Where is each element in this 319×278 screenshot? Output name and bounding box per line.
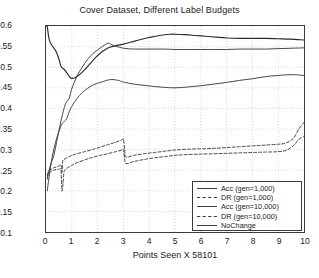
y-tick-label: 0.2 — [0, 186, 12, 196]
y-tick-label: 0.35 — [0, 124, 12, 134]
legend-item: Acc (gen=1,000) — [196, 184, 298, 193]
legend-label: NoChange — [221, 221, 256, 230]
y-tick-label: 0.15 — [0, 207, 12, 217]
chart-legend: Acc (gen=1,000)DR (gen=1,000)Acc (gen=10… — [192, 181, 302, 231]
legend-line-sample — [196, 184, 218, 193]
legend-label: DR (gen=10,000) — [221, 212, 277, 221]
y-tick-label: 0.25 — [0, 166, 12, 176]
x-tick-label: 5 — [165, 236, 185, 246]
x-tick-label: 1 — [61, 236, 81, 246]
legend-line-sample — [196, 212, 218, 221]
y-tick-label: 0.3 — [0, 145, 12, 155]
legend-line-sample — [196, 221, 218, 230]
x-tick-label: 4 — [139, 236, 159, 246]
legend-line-sample — [196, 202, 218, 211]
y-tick-label: 0.45 — [0, 82, 12, 92]
y-tick-label: 0.4 — [0, 103, 12, 113]
x-tick-label: 9 — [269, 236, 289, 246]
legend-item: Acc (gen=10,000) — [196, 202, 298, 211]
x-tick-label: 6 — [191, 236, 211, 246]
y-tick-label: 0.5 — [0, 62, 12, 72]
legend-label: Acc (gen=1,000) — [221, 184, 275, 193]
legend-item: NoChange — [196, 221, 298, 230]
x-axis-label: Points Seen X 58101 — [45, 250, 305, 260]
x-tick-label: 8 — [243, 236, 263, 246]
x-tick-label: 7 — [217, 236, 237, 246]
x-tick-label: 10 — [295, 236, 315, 246]
chart-figure: Cover Dataset, Different Label Budgets 0… — [0, 0, 319, 278]
x-tick-label: 3 — [113, 236, 133, 246]
legend-label: Acc (gen=10,000) — [221, 202, 279, 211]
legend-item: DR (gen=10,000) — [196, 212, 298, 221]
x-tick-label: 2 — [87, 236, 107, 246]
y-tick-label: 0.1 — [0, 228, 12, 238]
y-tick-label: 0.6 — [0, 20, 12, 30]
y-tick-label: 0.55 — [0, 41, 12, 51]
x-tick-label: 0 — [35, 236, 55, 246]
legend-line-sample — [196, 193, 218, 202]
legend-item: DR (gen=1,000) — [196, 193, 298, 202]
legend-label: DR (gen=1,000) — [221, 193, 273, 202]
